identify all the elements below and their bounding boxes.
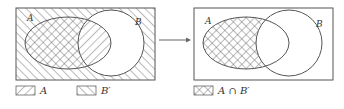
legend-label-a: A (39, 85, 47, 96)
legend-swatch-a (16, 86, 35, 95)
left-venn-panel: A B (16, 8, 155, 80)
right-legend: A ∩ B′ (194, 85, 250, 96)
legend-swatch-a-intersect-b-complement (194, 86, 213, 95)
legend-swatch-b-complement (77, 86, 96, 95)
set-b-label-result: B (315, 19, 323, 29)
venn-diagram: A B A B′ A B A ∩ B′ (0, 0, 344, 109)
set-b-label: B (134, 17, 142, 27)
right-venn-panel: A B (194, 8, 333, 80)
set-a-label-result: A (204, 16, 212, 26)
right-arrow-icon (159, 38, 191, 43)
legend-label-b-complement: B′ (100, 85, 111, 96)
legend-label-a-intersect-b-complement: A ∩ B′ (217, 85, 250, 96)
left-legend: A B′ (16, 85, 111, 96)
set-a-label: A (26, 13, 34, 23)
